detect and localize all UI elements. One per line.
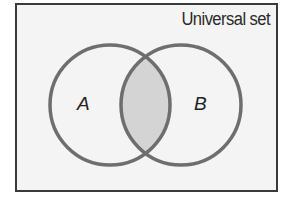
venn-diagram [0,0,288,214]
universal-set-label: Universal set [169,9,270,30]
set-a-label: A [77,94,90,113]
set-b-label: B [194,94,207,113]
